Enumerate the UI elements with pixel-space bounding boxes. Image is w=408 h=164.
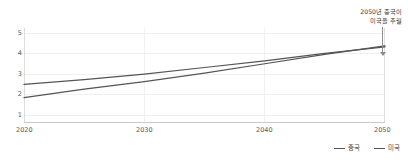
annotation-line-2: 미국을 추월	[360, 17, 402, 26]
chart-screenshot: 5 4 3 2 1 2020 2030 2040 2050 2050년 중국이 …	[0, 0, 408, 164]
series-layer	[0, 0, 408, 164]
series-line-usa	[24, 47, 385, 85]
chart-legend: 중국 미국	[334, 145, 400, 152]
legend-item-china[interactable]: 중국	[334, 145, 360, 152]
annotation-arrow-icon	[382, 27, 383, 53]
legend-swatch-icon-usa	[374, 148, 385, 149]
annotation-line-1: 2050년 중국이	[360, 8, 402, 17]
legend-item-usa[interactable]: 미국	[374, 145, 400, 152]
legend-label-china: 중국	[348, 145, 360, 152]
series-line-china	[24, 46, 385, 98]
legend-swatch-icon-china	[334, 148, 345, 149]
crossover-annotation: 2050년 중국이 미국을 추월	[360, 8, 402, 26]
legend-label-usa: 미국	[388, 145, 400, 152]
